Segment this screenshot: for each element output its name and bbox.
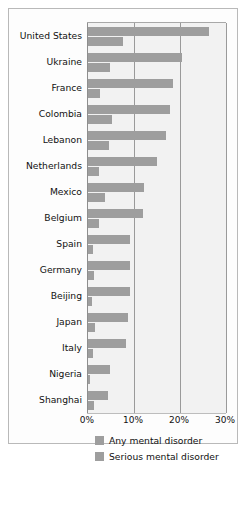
x-tick-label: 0% — [80, 415, 94, 425]
category-label: Germany — [40, 263, 82, 277]
x-axis-tick-labels: 0%10%20%30% — [87, 415, 237, 431]
bar-any — [88, 131, 166, 140]
bar-serious — [88, 37, 123, 46]
bar-serious — [88, 219, 99, 228]
bar-serious — [88, 193, 105, 202]
bar-serious — [88, 401, 94, 410]
bar-serious — [88, 63, 110, 72]
legend-label: Serious mental disorder — [109, 451, 219, 462]
category-label: Nigeria — [49, 367, 82, 381]
gridline — [180, 23, 181, 413]
bar-serious — [88, 271, 94, 280]
legend-item: Serious mental disorder — [95, 449, 235, 464]
bar-any — [88, 391, 108, 400]
panel-bottom-rule — [87, 413, 226, 414]
x-tick-label: 10% — [123, 415, 143, 425]
x-tick-label: 20% — [169, 415, 189, 425]
category-label: Shanghai — [39, 393, 82, 407]
bar-serious — [88, 167, 99, 176]
bar-any — [88, 183, 144, 192]
bar-serious — [88, 89, 100, 98]
bar-serious — [88, 297, 92, 306]
bar-serious — [88, 323, 95, 332]
bar-any — [88, 105, 170, 114]
category-label: Beijing — [51, 289, 82, 303]
bar-any — [88, 365, 110, 374]
bar-serious — [88, 375, 90, 384]
bar-any — [88, 157, 157, 166]
category-label: Mexico — [50, 185, 82, 199]
legend-swatch-icon — [95, 452, 104, 461]
category-label: Netherlands — [26, 159, 82, 173]
bar-serious — [88, 141, 109, 150]
bar-any — [88, 339, 126, 348]
bar-any — [88, 79, 173, 88]
legend-item: Any mental disorder — [95, 433, 235, 448]
bar-serious — [88, 245, 93, 254]
x-tick-label: 30% — [215, 415, 235, 425]
plot-panel — [87, 23, 226, 413]
category-label: Spain — [56, 237, 82, 251]
category-label: Lebanon — [43, 133, 82, 147]
chart-legend: Any mental disorderSerious mental disord… — [95, 433, 235, 465]
category-label: Japan — [56, 315, 82, 329]
plot-wrapper: United StatesUkraineFranceColombiaLebano… — [9, 9, 237, 443]
category-label: Ukraine — [47, 55, 82, 69]
legend-label: Any mental disorder — [109, 435, 202, 446]
category-label: United States — [20, 29, 82, 43]
category-label: Italy — [62, 341, 82, 355]
category-label: Belgium — [44, 211, 82, 225]
bar-any — [88, 261, 130, 270]
bar-serious — [88, 349, 93, 358]
gridline — [226, 23, 227, 413]
bar-any — [88, 235, 130, 244]
legend-swatch-icon — [95, 436, 104, 445]
bar-serious — [88, 115, 112, 124]
bar-any — [88, 209, 143, 218]
category-label: Colombia — [39, 107, 82, 121]
bar-any — [88, 53, 182, 62]
bar-any — [88, 313, 128, 322]
bar-any — [88, 27, 209, 36]
chart-figure: United StatesUkraineFranceColombiaLebano… — [8, 8, 238, 444]
category-label: France — [51, 81, 82, 95]
bar-any — [88, 287, 130, 296]
category-axis-labels: United StatesUkraineFranceColombiaLebano… — [9, 23, 86, 413]
